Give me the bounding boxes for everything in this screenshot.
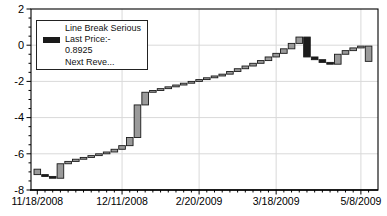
up-line-bar: [88, 156, 95, 158]
up-line-bar: [296, 37, 303, 43]
up-line-bar: [188, 81, 195, 83]
y-tick-label: 2: [18, 3, 24, 15]
up-line-bar: [257, 61, 264, 64]
y-tick-label: -2: [14, 75, 24, 87]
down-line-bar: [327, 62, 334, 64]
legend-indent: [37, 37, 65, 43]
up-line-bar: [180, 83, 187, 85]
up-line-bar: [173, 85, 180, 87]
up-line-bar: [119, 146, 126, 150]
y-tick-label: -6: [14, 148, 24, 160]
last-price-label: Last Price:-: [65, 34, 111, 45]
up-line-bar: [250, 63, 257, 66]
down-line-bar: [42, 175, 49, 177]
up-line-bar: [234, 69, 241, 72]
legend-last-price-row: Last Price:-: [37, 34, 147, 45]
down-line-bar: [49, 176, 56, 178]
up-line-bar: [65, 161, 72, 163]
next-revenue-label: Next Reve...: [65, 57, 115, 68]
up-line-bar: [196, 80, 203, 82]
up-line-bar: [358, 46, 365, 48]
down-line-bar: [319, 60, 326, 63]
y-tick-label: 0: [18, 39, 24, 51]
up-line-bar: [57, 164, 64, 178]
down-line-bar: [311, 57, 318, 60]
series-name-label: Line Break Serious: [65, 23, 141, 34]
x-tick-label: 12/11/2008: [96, 195, 148, 207]
down-line-bar: [304, 37, 311, 57]
up-line-bar: [34, 169, 41, 174]
x-tick-label: 2/20/2009: [176, 195, 223, 207]
up-line-bar: [273, 53, 280, 57]
up-line-bar: [288, 43, 295, 48]
legend-price-value-row: 0.8925: [37, 45, 147, 56]
up-line-bar: [281, 49, 288, 54]
legend-series-row: Line Break Serious: [37, 23, 147, 34]
chart-window: 20-2-4-6-811/18/200812/11/20082/20/20093…: [0, 0, 387, 216]
legend-next-row: Next Reve...: [37, 57, 147, 68]
up-line-bar: [80, 157, 87, 159]
up-line-bar: [111, 149, 118, 152]
up-line-bar: [157, 89, 164, 91]
up-line-bar: [242, 66, 249, 69]
up-line-bar: [350, 48, 357, 51]
x-tick-label: 5/8/2009: [340, 195, 381, 207]
up-line-bar: [334, 54, 341, 64]
up-line-bar: [211, 76, 218, 78]
x-tick-label: 3/18/2009: [253, 195, 300, 207]
legend: Line Break Serious Last Price:- 0.8925 N…: [36, 20, 148, 70]
up-line-bar: [103, 152, 110, 154]
up-line-bar: [365, 46, 372, 61]
up-line-bar: [265, 57, 272, 61]
up-line-bar: [96, 154, 103, 156]
y-tick-label: -4: [14, 111, 24, 123]
series-swatch-icon: [43, 37, 60, 43]
x-tick-label: 11/18/2008: [11, 195, 63, 207]
up-line-bar: [142, 92, 149, 105]
up-line-bar: [150, 90, 157, 92]
up-line-bar: [342, 51, 349, 55]
last-price-value: 0.8925: [65, 45, 93, 56]
up-line-bar: [165, 87, 172, 89]
up-line-bar: [227, 71, 234, 74]
up-line-bar: [219, 74, 226, 76]
up-line-bar: [134, 105, 141, 138]
up-line-bar: [204, 78, 211, 80]
up-line-bar: [126, 138, 133, 146]
up-line-bar: [73, 159, 80, 161]
